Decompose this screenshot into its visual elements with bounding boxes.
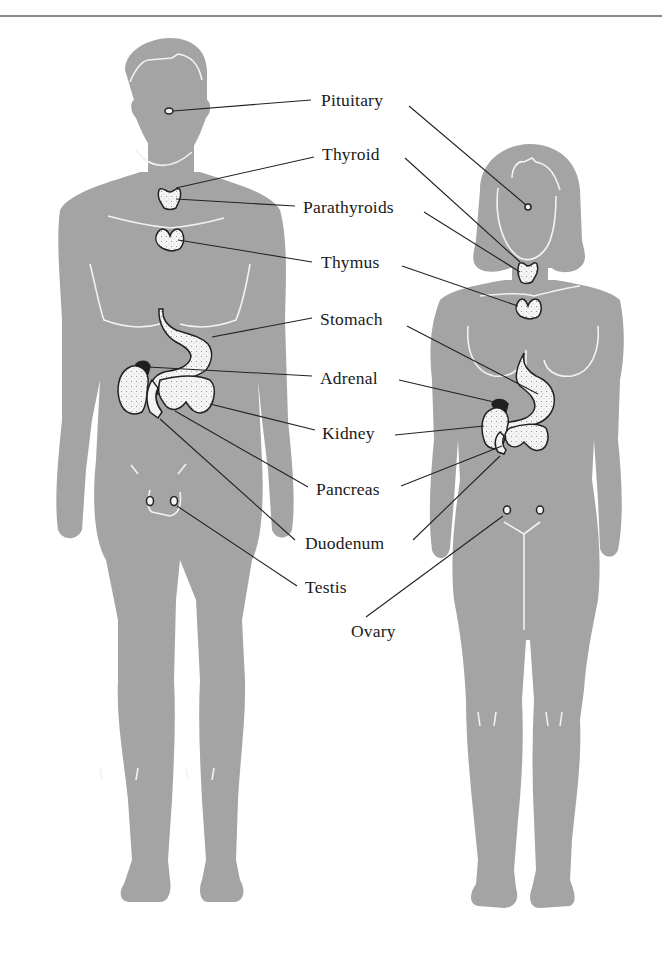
label-thyroid: Thyroid: [322, 146, 380, 164]
label-parathyroids: Parathyroids: [303, 199, 394, 217]
male-testis-right-icon: [171, 497, 178, 506]
label-pituitary: Pituitary: [321, 92, 383, 110]
label-testis: Testis: [305, 579, 347, 597]
female-ovary-right-icon: [537, 506, 544, 514]
label-kidney: Kidney: [322, 425, 375, 443]
male-pituitary-icon: [165, 108, 173, 114]
female-silhouette: [430, 144, 624, 908]
label-thymus: Thymus: [321, 254, 380, 272]
label-duodenum: Duodenum: [305, 535, 384, 553]
female-ovary-left-icon: [504, 506, 511, 514]
male-kidney-icon: [118, 366, 148, 414]
male-testis-left-icon: [147, 497, 154, 506]
label-adrenal: Adrenal: [320, 370, 378, 388]
male-silhouette: [56, 38, 293, 902]
label-pancreas: Pancreas: [316, 481, 380, 499]
label-stomach: Stomach: [320, 311, 383, 329]
label-ovary: Ovary: [351, 623, 396, 641]
